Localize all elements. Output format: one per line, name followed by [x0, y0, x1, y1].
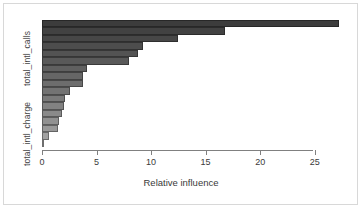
bar: [42, 87, 70, 94]
bar: [42, 125, 58, 132]
bar-row: [42, 132, 342, 139]
x-axis-tick: [315, 150, 316, 155]
bar: [42, 72, 83, 79]
x-axis-title: Relative influence: [0, 177, 362, 188]
bar: [42, 57, 129, 64]
bar-row: [42, 65, 342, 72]
bar: [42, 95, 65, 102]
bar: [42, 50, 138, 57]
bar-row: [42, 110, 342, 117]
bar-row: [42, 35, 342, 42]
bar: [42, 117, 59, 124]
x-axis-tick: [97, 150, 98, 155]
x-axis-tick-label: 0: [39, 157, 44, 167]
bar: [42, 140, 44, 147]
bar-row: [42, 102, 342, 109]
x-axis-tick: [42, 150, 43, 155]
bar-row: [42, 125, 342, 132]
bar-row: [42, 95, 342, 102]
bar-row: [42, 72, 342, 79]
x-axis-tick-label: 20: [255, 157, 265, 167]
bar-row: [42, 50, 342, 57]
x-axis-line: [42, 150, 313, 151]
bar-row: [42, 27, 342, 34]
bar-row: [42, 57, 342, 64]
bar: [42, 35, 178, 42]
x-axis-tick-label: 25: [310, 157, 320, 167]
bar: [42, 20, 339, 27]
x-axis-tick: [206, 150, 207, 155]
bar: [42, 80, 83, 87]
bar-row: [42, 140, 342, 147]
bar: [42, 65, 87, 72]
bar-row: [42, 117, 342, 124]
y-axis-label-total-intl-charge: total_intl_charge: [22, 102, 32, 166]
y-axis-label-total-intl-calls: total_intl_calls: [22, 31, 32, 86]
x-axis-tick-label: 5: [94, 157, 99, 167]
bar: [42, 42, 143, 49]
chart-figure: total_intl_calls total_intl_charge 05101…: [0, 0, 362, 210]
plot-area: [42, 20, 342, 147]
bar: [42, 110, 62, 117]
x-axis-tick-label: 15: [201, 157, 211, 167]
bar: [42, 102, 64, 109]
bar-row: [42, 42, 342, 49]
x-axis-tick: [260, 150, 261, 155]
bar-row: [42, 20, 342, 27]
x-axis-tick: [151, 150, 152, 155]
bar-row: [42, 87, 342, 94]
x-axis-tick-label: 10: [146, 157, 156, 167]
bar: [42, 27, 225, 34]
bar: [42, 132, 49, 139]
bar-row: [42, 80, 342, 87]
